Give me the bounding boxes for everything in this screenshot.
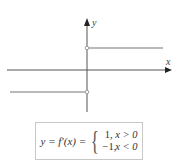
case-value: −1, (103, 141, 113, 153)
y-axis-label: y (91, 17, 97, 28)
formula-cases: 1, x > 0 −1, x < 0 (103, 129, 138, 153)
case-value: 1, (103, 129, 113, 141)
left-brace-icon: { (91, 127, 99, 155)
case-condition: x < 0 (115, 141, 137, 152)
case-row-negative: −1, x < 0 (103, 141, 138, 153)
open-point-upper (85, 46, 89, 50)
formula-box: y = f′(x) = { 1, x > 0 −1, x < 0 (35, 122, 143, 160)
case-row-positive: 1, x > 0 (103, 129, 138, 141)
formula-lhs: y = f′(x) = (41, 135, 87, 147)
y-axis-arrow-icon (84, 18, 90, 26)
x-axis-label: x (165, 56, 171, 67)
x-axis-arrow-icon (165, 67, 172, 73)
open-point-lower (85, 90, 89, 94)
case-condition: x > 0 (115, 129, 137, 140)
